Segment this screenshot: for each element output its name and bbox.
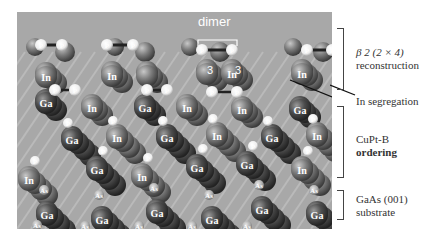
p-label: P [60, 42, 65, 50]
as-label: As [81, 223, 89, 230]
as-atom: As [32, 220, 42, 229]
as-atom: As [134, 221, 144, 229]
in-atom: In [206, 125, 228, 147]
annotation-segregation: In segregation [356, 95, 419, 108]
in-atom: In [176, 97, 198, 119]
ga-atom: Ga [236, 154, 258, 176]
p-label: P [211, 116, 216, 124]
in-atom [181, 38, 199, 56]
p-label: P [161, 118, 166, 126]
p-label: P [131, 42, 136, 50]
p-label: P [210, 89, 215, 97]
p-atom: P [206, 86, 218, 98]
p-label: P [201, 146, 206, 154]
as-label: As [135, 223, 143, 230]
in-sphere [181, 38, 199, 56]
ga-label: Ga [311, 210, 324, 221]
p-atom: P [63, 118, 73, 128]
ga-atom: Ga [289, 99, 311, 121]
p-label: P [101, 148, 106, 156]
p-atom: P [198, 144, 208, 154]
annotation-reconstruction: β 2 (2 × 4) reconstruction [356, 46, 419, 72]
in-sphere [136, 65, 158, 87]
annotation-segregation-line1: In segregation [356, 95, 419, 108]
p-atom: P [35, 39, 47, 51]
ga-atom: Ga [146, 202, 168, 224]
p-atom: P [49, 84, 61, 96]
p-atom: P [226, 44, 238, 56]
as-label: As [188, 223, 196, 230]
in-atom: In [106, 127, 128, 149]
p-label: P [200, 47, 205, 55]
ga-atom: Ga [251, 199, 273, 221]
p-atom: P [301, 44, 313, 56]
p-atom: P [101, 39, 113, 51]
as-atom: As [254, 180, 264, 190]
p-label: P [33, 158, 38, 166]
ga-label: Ga [41, 210, 54, 221]
as-label: As [95, 192, 103, 200]
in-atom: In [18, 169, 40, 191]
annotation-ordering-line1: CuPt-B [356, 133, 397, 146]
as-atom: As [309, 185, 319, 195]
ga-atom: Ga [134, 97, 156, 119]
p-label: P [165, 87, 170, 95]
annotation-substrate-line1: GaAs (001) [356, 193, 408, 206]
as-atom: As [204, 190, 214, 200]
p-atom: P [263, 116, 273, 126]
ga-atom: Ga [86, 159, 108, 181]
annotation-ordering: CuPt-B ordering [356, 133, 397, 159]
ga-atom: Ga [61, 129, 83, 151]
p-label: P [53, 87, 58, 95]
p-atom: P [308, 114, 318, 124]
ga-label: Ga [294, 105, 307, 116]
p-label: P [235, 89, 240, 97]
p-atom: P [108, 116, 118, 126]
p-atom: P [143, 153, 153, 163]
ga-atom: Ga [261, 127, 283, 149]
ga-label: Ga [96, 215, 109, 226]
annotation-ordering-line2: ordering [356, 146, 397, 159]
p-label: P [39, 42, 44, 50]
site-label: 3 [235, 64, 241, 76]
annotation-reconstruction-line2: reconstruction [356, 59, 419, 72]
as-atom: As [80, 221, 90, 229]
in-label: In [107, 71, 117, 82]
p-label: P [111, 118, 116, 126]
p-label: P [311, 116, 316, 124]
p-atom: P [127, 39, 139, 51]
ga-atom: Ga [306, 204, 328, 226]
ga-label: Ga [191, 163, 204, 174]
as-label: As [33, 222, 41, 230]
in-label: In [112, 133, 122, 144]
in-label: In [312, 131, 322, 142]
as-label: As [40, 187, 48, 195]
p-label: P [73, 87, 78, 95]
p-label: P [306, 148, 311, 156]
p-atom: P [303, 146, 313, 156]
as-atom: As [39, 185, 49, 195]
p-label: P [105, 42, 110, 50]
annotation-reconstruction-line1: β 2 (2 × 4) [356, 46, 419, 59]
in-atom [136, 65, 158, 87]
annotation-substrate-line2: substrate [356, 206, 408, 219]
in-atom: In [101, 65, 123, 87]
p-label: P [251, 143, 256, 151]
as-atom: As [187, 221, 197, 229]
p-label: P [146, 155, 151, 163]
as-label: As [255, 182, 263, 190]
in-label: In [297, 69, 307, 80]
ga-label: Ga [241, 160, 254, 171]
ga-label: Ga [139, 103, 152, 114]
p-label: P [145, 87, 150, 95]
as-label: As [243, 223, 251, 230]
ga-label: Ga [256, 205, 269, 216]
as-label: As [310, 187, 318, 195]
site-label: 3 [207, 64, 213, 76]
atomic-model-image: InInInInPPPPPPPP33GaInGaInInGaPPPPPPGaPI… [17, 12, 332, 229]
p-label: P [305, 47, 310, 55]
annotation-substrate: GaAs (001) substrate [356, 193, 408, 219]
ga-label: Ga [40, 98, 53, 109]
in-label: In [182, 103, 192, 114]
in-atom: In [81, 97, 103, 119]
